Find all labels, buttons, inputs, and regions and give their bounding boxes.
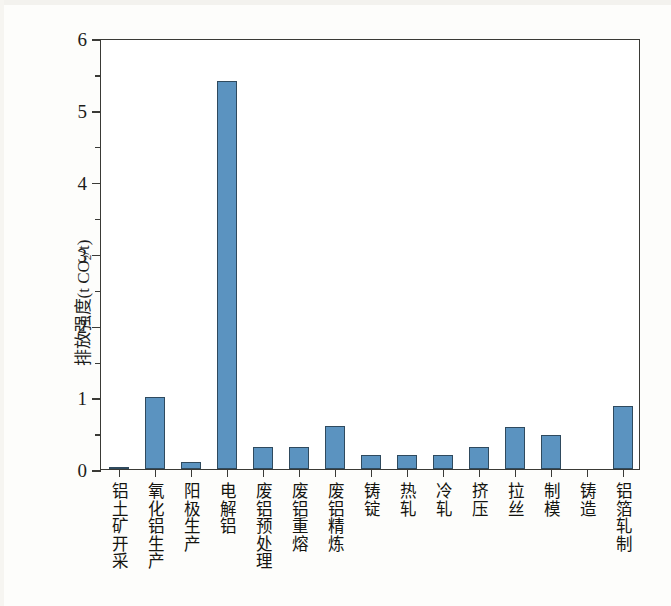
x-axis-tick-label: 冷轧 xyxy=(430,482,454,517)
y-axis-tick-label: 3 xyxy=(78,246,88,265)
x-axis-tick-label: 氧化铝生产 xyxy=(142,482,166,570)
y-axis-tick-label: 0 xyxy=(78,461,88,480)
y-axis-tick-minor xyxy=(95,219,101,220)
y-axis-title-prefix: 排放强度(t CO xyxy=(74,260,93,366)
y-axis-tick-major xyxy=(92,255,101,256)
x-axis-tick-label: 挤压 xyxy=(466,482,490,517)
x-axis-tick xyxy=(263,469,264,477)
y-axis-tick-minor xyxy=(95,434,101,435)
x-axis-tick xyxy=(587,469,588,477)
y-axis-tick-major xyxy=(92,327,101,328)
x-axis-tick-label: 废铝预处理 xyxy=(250,482,274,570)
x-axis-tick xyxy=(371,469,372,477)
x-axis-tick xyxy=(299,469,300,477)
x-axis-tick xyxy=(335,469,336,477)
x-axis-tick xyxy=(155,469,156,477)
bar xyxy=(181,462,201,469)
x-axis-tick-label: 铝土矿开采 xyxy=(106,482,130,570)
y-axis-tick-label: 5 xyxy=(78,102,88,121)
y-axis-tick-minor xyxy=(95,75,101,76)
x-axis-tick-label: 铝箔轧制 xyxy=(610,482,634,552)
y-axis-tick-label: 1 xyxy=(78,389,88,408)
bar xyxy=(505,427,525,469)
bar-series xyxy=(101,40,639,469)
bar xyxy=(469,447,489,469)
x-axis-tick xyxy=(227,469,228,477)
x-axis-tick xyxy=(119,469,120,477)
bar-chart-figure: 排放强度(t CO2/t) 0123456 铝土矿开采氧化铝生产阳极生产电解铝废… xyxy=(0,0,671,606)
y-axis-tick-major xyxy=(92,398,101,399)
bar xyxy=(325,426,345,469)
bar xyxy=(145,397,165,469)
y-axis-tick-label: 4 xyxy=(78,174,88,193)
bar xyxy=(397,455,417,469)
bar xyxy=(613,406,633,469)
x-axis-tick-label: 铸造 xyxy=(574,482,598,517)
y-axis-tick-major xyxy=(92,39,101,40)
plot-area: 0123456 xyxy=(100,39,640,470)
x-axis-tick-label: 热轧 xyxy=(394,482,418,517)
x-axis-tick xyxy=(623,469,624,477)
x-axis-tick-label: 废铝重熔 xyxy=(286,482,310,552)
x-axis-tick-label: 阳极生产 xyxy=(178,482,202,552)
x-axis-tick-label: 电解铝 xyxy=(214,482,238,535)
x-axis-tick-label: 铸锭 xyxy=(358,482,382,517)
x-axis-tick-label: 制模 xyxy=(538,482,562,517)
x-axis-tick xyxy=(479,469,480,477)
y-axis-tick-label: 6 xyxy=(78,30,88,49)
x-axis-tick-label: 废铝精炼 xyxy=(322,482,346,552)
y-axis-tick-major xyxy=(92,470,101,471)
y-axis-tick-major xyxy=(92,111,101,112)
bar xyxy=(433,455,453,469)
bar xyxy=(217,81,237,469)
y-axis-tick-minor xyxy=(95,363,101,364)
x-axis-tick xyxy=(407,469,408,477)
y-axis-tick-label: 2 xyxy=(78,317,88,336)
bar xyxy=(361,455,381,469)
x-axis-tick-label: 拉丝 xyxy=(502,482,526,517)
x-axis-tick xyxy=(443,469,444,477)
bar xyxy=(253,447,273,469)
x-axis-tick xyxy=(191,469,192,477)
y-axis-tick-minor xyxy=(95,291,101,292)
x-axis-tick xyxy=(551,469,552,477)
bar xyxy=(541,435,561,469)
x-axis-tick xyxy=(515,469,516,477)
y-axis-tick-minor xyxy=(95,147,101,148)
y-axis-tick-major xyxy=(92,183,101,184)
bar xyxy=(289,447,309,469)
